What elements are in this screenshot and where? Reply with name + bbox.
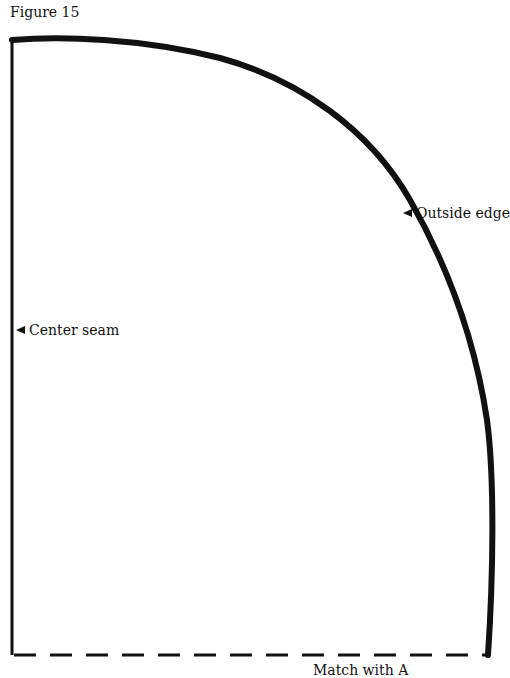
outside-edge-curve	[12, 38, 492, 655]
match-with-a-label: Match with A	[313, 662, 408, 678]
outside-edge-label: Outside edge	[403, 205, 510, 221]
pointer-arrow-icon	[16, 326, 25, 334]
center-seam-label: Center seam	[16, 322, 119, 338]
pointer-arrow-icon	[403, 209, 412, 217]
